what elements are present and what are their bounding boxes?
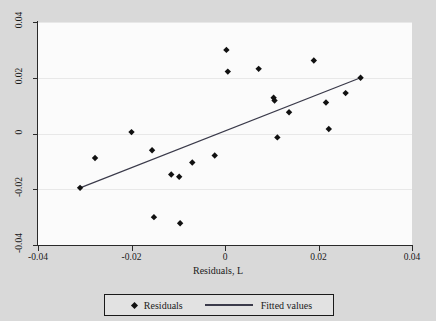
x-tick-label: -0.02 [102, 252, 162, 262]
y-tick-label: 0 [14, 112, 24, 152]
x-tick-label: 0 [195, 252, 255, 262]
data-point [342, 90, 348, 96]
data-point [326, 126, 332, 132]
line-marker-icon [205, 304, 253, 305]
data-point [177, 220, 183, 226]
data-point [286, 109, 292, 115]
diamond-marker-icon [131, 301, 138, 308]
fitted-line [80, 78, 361, 188]
data-point [189, 159, 195, 165]
legend-item-fitted-values: Fitted values [183, 300, 312, 311]
x-tick [412, 246, 413, 251]
y-tick [33, 189, 38, 190]
data-point [168, 171, 174, 177]
x-tick-label: 0.02 [289, 252, 349, 262]
x-tick-label: -0.04 [8, 252, 68, 262]
legend-label-residuals: Residuals [144, 300, 183, 311]
data-point [77, 185, 83, 191]
legend-item-residuals: Residuals [126, 300, 183, 311]
data-point [311, 57, 317, 63]
y-tick [33, 134, 38, 135]
plot-area [38, 22, 412, 245]
chart-legend: Residuals Fitted values [104, 294, 334, 316]
data-point [151, 214, 157, 220]
y-tick-label: 0.02 [14, 56, 24, 96]
legend-label-fitted-values: Fitted values [261, 300, 312, 311]
data-point [225, 68, 231, 74]
data-point [212, 152, 218, 158]
data-point [223, 47, 229, 53]
x-tick-label: 0.04 [382, 252, 436, 262]
y-tick [33, 22, 38, 23]
x-tick [319, 246, 320, 251]
y-tick [33, 78, 38, 79]
x-tick [225, 246, 226, 251]
data-point [255, 66, 261, 72]
y-tick-label: -0.02 [14, 167, 24, 207]
data-point [274, 134, 280, 140]
chart-figure: 0.040.020-0.02-0.04 -0.04-0.0200.020.04 … [0, 0, 436, 321]
data-point [176, 174, 182, 180]
data-point [92, 155, 98, 161]
plot-canvas [38, 22, 412, 245]
data-point [128, 129, 134, 135]
data-point [323, 99, 329, 105]
data-point [357, 75, 363, 81]
x-tick [132, 246, 133, 251]
data-point [149, 147, 155, 153]
x-axis-title: Residuals, L [0, 265, 436, 276]
x-tick [38, 246, 39, 251]
y-tick-label: 0.04 [14, 0, 24, 40]
